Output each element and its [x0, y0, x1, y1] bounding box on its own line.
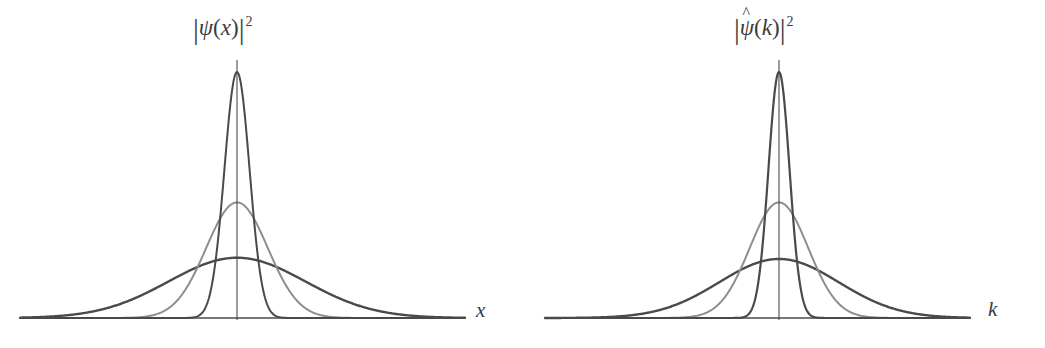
momentum-space-plot — [522, 0, 1045, 348]
y-axis-label-momentum: |^ψ(k)|2 — [734, 15, 793, 44]
right-bar-glyph: | — [780, 15, 786, 44]
plot-panel-position: |ψ(x)|2 x — [0, 0, 523, 348]
close-paren-glyph: ) — [772, 15, 780, 40]
close-paren-glyph: ) — [231, 15, 239, 40]
psi-glyph: ψ — [199, 15, 213, 40]
curve-medium-packet — [20, 202, 465, 318]
x-axis-label: x — [476, 300, 485, 321]
position-curves — [20, 72, 465, 318]
variable-glyph: x — [221, 15, 231, 40]
psi-hat-group: ^ψ — [740, 16, 754, 39]
figure-root: |ψ(x)|2 x |^ψ(k)|2 k — [0, 0, 1045, 348]
momentum-axes — [545, 60, 968, 320]
curve-wide-packet — [20, 258, 465, 318]
variable-glyph: k — [762, 15, 772, 40]
curve-narrow-packet — [20, 72, 465, 318]
curve-medium-packet-transform — [545, 202, 970, 318]
momentum-curves — [545, 72, 970, 318]
hat-accent-glyph: ^ — [743, 5, 751, 21]
position-space-plot — [0, 0, 523, 348]
y-axis-label-position: |ψ(x)|2 — [193, 15, 252, 44]
open-paren-glyph: ( — [754, 15, 762, 40]
k-axis-label: k — [988, 299, 997, 320]
right-bar-glyph: | — [239, 15, 245, 44]
curve-narrow-packet-transform — [545, 72, 970, 318]
open-paren-glyph: ( — [213, 15, 221, 40]
exponent-glyph: 2 — [786, 14, 793, 29]
exponent-glyph: 2 — [245, 14, 252, 29]
plot-panel-momentum: |^ψ(k)|2 k — [522, 0, 1045, 348]
